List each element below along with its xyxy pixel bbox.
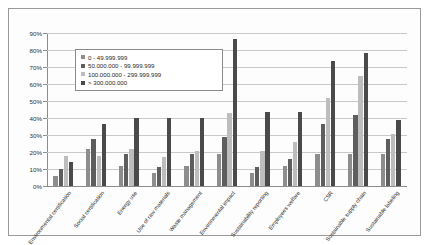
bar xyxy=(184,166,188,186)
x-axis-tick-labels: Environmental certificationSocial certif… xyxy=(47,189,407,245)
legend-label: > 300.000.000 xyxy=(88,79,127,86)
bar xyxy=(190,154,194,186)
bar xyxy=(134,118,138,186)
y-axis-tick-label: 60% xyxy=(30,81,42,88)
bar-group xyxy=(309,33,342,186)
y-axis-tick-label: 0% xyxy=(33,183,42,190)
bar xyxy=(152,173,156,187)
bar xyxy=(250,173,254,187)
bar xyxy=(162,157,166,186)
bar xyxy=(233,39,237,186)
bar xyxy=(53,176,57,186)
y-axis-tick-label: 50% xyxy=(30,98,42,105)
bar xyxy=(288,159,292,186)
bar xyxy=(331,61,335,186)
bar xyxy=(386,139,390,186)
y-axis-tick-label: 40% xyxy=(30,115,42,122)
legend-swatch-icon xyxy=(81,72,85,76)
legend-item: 100.000.000 - 299.999.999 xyxy=(81,70,218,79)
bar xyxy=(91,139,95,186)
legend-label: 50.000.000 - 99.999.999 xyxy=(88,62,154,69)
y-axis-tick-label: 90% xyxy=(30,30,42,37)
bar xyxy=(353,115,357,186)
legend-label: 100.000.000 - 299.999.999 xyxy=(88,71,161,78)
bar xyxy=(157,167,161,186)
bar xyxy=(195,151,199,186)
bar xyxy=(348,154,352,186)
bar xyxy=(321,124,325,186)
y-axis-tick-label: 80% xyxy=(30,47,42,54)
bar xyxy=(59,169,63,186)
bar xyxy=(217,154,221,186)
bar xyxy=(358,76,362,186)
bar xyxy=(293,142,297,186)
bar-group xyxy=(342,33,375,186)
bar xyxy=(86,149,90,186)
legend-item: 0 - 49.999.999 xyxy=(81,53,218,62)
legend-label: 0 - 49.999.999 xyxy=(88,54,127,61)
bar xyxy=(124,154,128,186)
chart-frame: 90%80%70%60%50%40%30%20%10%0% Environmen… xyxy=(8,8,421,236)
bar xyxy=(283,166,287,186)
bar xyxy=(381,154,385,186)
bar-group xyxy=(374,33,407,186)
y-axis-tick-labels: 90%80%70%60%50%40%30%20%10%0% xyxy=(9,33,45,187)
bar xyxy=(97,156,101,186)
bar xyxy=(129,149,133,186)
bar xyxy=(326,98,330,186)
legend-swatch-icon xyxy=(81,64,85,68)
bar xyxy=(315,154,319,186)
bar xyxy=(260,151,264,186)
legend-swatch-icon xyxy=(81,81,85,85)
bar xyxy=(200,118,204,186)
bar xyxy=(391,134,395,186)
bar xyxy=(167,118,171,186)
bar xyxy=(222,137,226,186)
y-axis-tick-label: 30% xyxy=(30,132,42,139)
bar xyxy=(119,166,123,186)
bar xyxy=(227,113,231,186)
legend-swatch-icon xyxy=(81,55,85,59)
bar xyxy=(265,112,269,186)
bar xyxy=(255,167,259,186)
bar xyxy=(102,124,106,186)
bar-group xyxy=(276,33,309,186)
bar xyxy=(69,162,73,186)
y-axis-tick-label: 10% xyxy=(30,166,42,173)
y-axis-tick-label: 70% xyxy=(30,64,42,71)
chart-legend: 0 - 49.999.99950.000.000 - 99.999.999100… xyxy=(75,49,223,91)
legend-item: 50.000.000 - 99.999.999 xyxy=(81,62,218,71)
bar xyxy=(64,156,68,186)
bar-group xyxy=(243,33,276,186)
x-axis-line xyxy=(47,186,407,187)
bar xyxy=(364,53,368,186)
bar xyxy=(298,112,302,186)
legend-item: > 300.000.000 xyxy=(81,79,218,88)
y-axis-tick-label: 20% xyxy=(30,149,42,156)
bar xyxy=(396,120,400,186)
